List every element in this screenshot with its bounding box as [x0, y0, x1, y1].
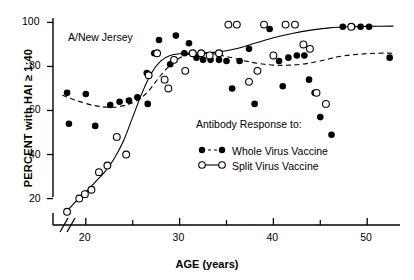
data-point-whole-virus — [116, 98, 123, 105]
data-point-split-virus — [165, 85, 172, 92]
chart-canvas — [0, 0, 414, 280]
data-point-split-virus — [161, 76, 168, 83]
data-point-whole-virus — [92, 123, 99, 130]
y-tick-label: 40 — [29, 148, 41, 160]
legend-marker-split-virus — [199, 162, 206, 169]
data-point-split-virus — [171, 56, 178, 63]
data-point-split-virus — [270, 52, 277, 59]
data-point-whole-virus — [216, 57, 223, 64]
data-point-whole-virus — [279, 83, 286, 90]
data-point-split-virus — [300, 41, 307, 48]
data-point-whole-virus — [328, 131, 335, 138]
data-point-split-virus — [182, 67, 189, 74]
data-point-whole-virus — [276, 58, 283, 65]
data-point-split-virus — [323, 100, 330, 107]
y-tick-label: 100 — [22, 15, 40, 27]
data-point-split-virus — [206, 52, 213, 59]
data-point-whole-virus — [83, 91, 90, 98]
data-point-split-virus — [216, 50, 223, 57]
figure-panel: PERCENT with HAI ≥ 1:40 AGE (years) A/Ne… — [0, 0, 414, 280]
data-point-split-virus — [348, 23, 355, 30]
data-point-split-virus — [96, 169, 103, 176]
data-point-whole-virus — [306, 76, 313, 83]
data-point-whole-virus — [301, 52, 308, 59]
data-point-split-virus — [254, 67, 261, 74]
data-point-split-virus — [233, 21, 240, 28]
data-point-whole-virus — [339, 24, 346, 31]
data-point-split-virus — [282, 21, 289, 28]
data-point-split-virus — [198, 50, 205, 57]
data-point-whole-virus — [223, 58, 230, 65]
y-tick-label: 60 — [29, 103, 41, 115]
data-point-split-virus — [64, 208, 71, 215]
data-point-whole-virus — [144, 101, 151, 108]
data-point-whole-virus — [294, 52, 301, 59]
data-point-whole-virus — [357, 24, 364, 31]
data-point-whole-virus — [64, 90, 71, 97]
data-point-split-virus — [113, 134, 120, 141]
legend-marker-whole-virus — [199, 147, 205, 153]
data-point-split-virus — [81, 191, 88, 198]
legend-marker-whole-virus — [219, 147, 225, 153]
data-point-whole-virus — [229, 85, 236, 92]
data-point-whole-virus — [181, 50, 188, 57]
data-point-split-virus — [154, 50, 161, 57]
data-point-whole-virus — [156, 37, 163, 44]
data-point-split-virus — [225, 21, 232, 28]
data-point-whole-virus — [186, 40, 193, 47]
x-tick-label: 40 — [266, 231, 278, 243]
y-tick-label: 20 — [29, 192, 41, 204]
data-point-whole-virus — [285, 54, 292, 61]
data-point-whole-virus — [366, 24, 373, 31]
data-point-whole-virus — [173, 32, 180, 39]
data-point-split-virus — [88, 186, 95, 193]
data-point-whole-virus — [246, 46, 253, 53]
data-point-whole-virus — [126, 97, 133, 104]
data-point-split-virus — [104, 162, 111, 169]
data-point-whole-virus — [200, 57, 207, 64]
x-tick-label: 30 — [173, 231, 185, 243]
data-point-whole-virus — [134, 94, 141, 101]
y-tick-label: 80 — [29, 59, 41, 71]
data-point-whole-virus — [317, 114, 324, 121]
data-point-split-virus — [261, 21, 268, 28]
x-tick-label: 50 — [360, 231, 372, 243]
legend-marker-split-virus — [219, 162, 226, 169]
data-point-split-virus — [145, 72, 152, 79]
data-point-whole-virus — [386, 54, 393, 61]
data-point-whole-virus — [251, 101, 258, 108]
x-tick-label: 20 — [79, 231, 91, 243]
data-point-split-virus — [189, 50, 196, 57]
fitted-curve-split-virus — [65, 26, 393, 213]
data-point-split-virus — [307, 45, 314, 52]
data-point-split-virus — [292, 21, 299, 28]
data-point-split-virus — [313, 89, 320, 96]
data-point-whole-virus — [66, 120, 73, 127]
data-point-split-virus — [123, 151, 130, 158]
data-point-split-virus — [246, 78, 253, 85]
data-point-whole-virus — [107, 102, 114, 109]
data-point-whole-virus — [236, 58, 243, 65]
